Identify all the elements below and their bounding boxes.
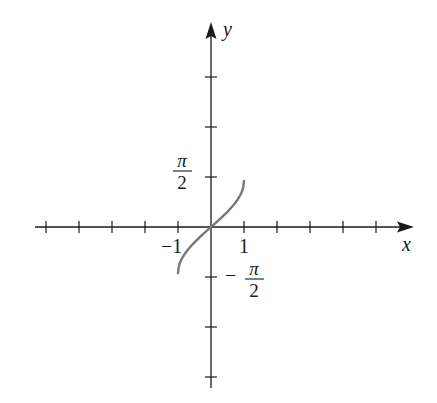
minus-sign: − — [225, 264, 236, 286]
y-tick-label-pi-over-2: π 2 — [173, 150, 192, 193]
two-denominator: 2 — [177, 172, 187, 193]
y-axis-label: y — [221, 18, 232, 41]
two-denominator: 2 — [249, 280, 259, 301]
x-tick-label-one: 1 — [239, 235, 249, 257]
x-tick-label-neg-one: −1 — [161, 235, 182, 257]
pi-numerator: π — [177, 150, 187, 171]
arcsin-graph: y x −1 1 π 2 − π 2 — [0, 0, 437, 403]
axes — [35, 32, 404, 388]
y-tick-label-neg-pi-over-2: − π 2 — [225, 258, 264, 301]
pi-numerator: π — [249, 258, 259, 279]
x-axis-label: x — [401, 233, 411, 255]
